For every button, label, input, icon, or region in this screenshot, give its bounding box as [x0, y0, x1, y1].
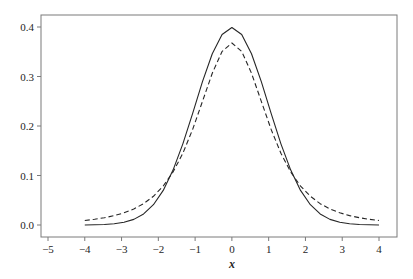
x-tick-label: 4 — [376, 243, 382, 255]
x-tick-label: 3 — [339, 243, 345, 255]
y-tick-label: 0.1 — [20, 170, 34, 182]
chart: −5−4−3−2−101234 0.00.10.20.30.4 x — [0, 0, 413, 279]
x-axis: −5−4−3−2−101234 — [42, 237, 382, 255]
x-tick-label: −5 — [42, 243, 54, 255]
x-tick-label: 0 — [229, 243, 235, 255]
plot-area — [41, 15, 397, 237]
y-tick-label: 0.0 — [20, 219, 34, 231]
x-tick-label: −4 — [79, 243, 91, 255]
y-tick-label: 0.4 — [20, 21, 34, 33]
y-tick-label: 0.3 — [20, 71, 34, 83]
x-tick-label: −1 — [189, 243, 201, 255]
x-axis-label: x — [228, 257, 235, 271]
y-tick-label: 0.2 — [20, 120, 34, 132]
x-tick-label: 1 — [266, 243, 272, 255]
x-tick-label: −2 — [152, 243, 164, 255]
y-axis: 0.00.10.20.30.4 — [20, 21, 41, 231]
x-tick-label: −3 — [116, 243, 128, 255]
x-tick-label: 2 — [303, 243, 309, 255]
